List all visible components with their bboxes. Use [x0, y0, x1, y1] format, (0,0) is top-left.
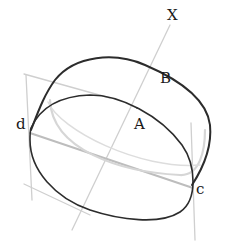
faint-inner-curve — [48, 102, 200, 165]
label-a: A — [134, 117, 145, 132]
bottom-left-guide — [24, 184, 90, 215]
front-ellipse — [30, 95, 193, 220]
ink-strokes — [30, 57, 210, 219]
diagonal-dc — [30, 133, 193, 188]
top-left-guide — [24, 74, 110, 98]
left-vertical-guide — [26, 75, 32, 200]
point-a — [136, 107, 138, 109]
label-d: d — [16, 117, 26, 132]
label-b: B — [160, 71, 171, 86]
axis-line — [72, 25, 170, 230]
label-x: X — [167, 8, 178, 23]
points — [136, 71, 161, 109]
cylinder-sketch — [0, 0, 227, 249]
hidden-back-arc — [50, 100, 205, 175]
label-c: c — [196, 182, 204, 197]
